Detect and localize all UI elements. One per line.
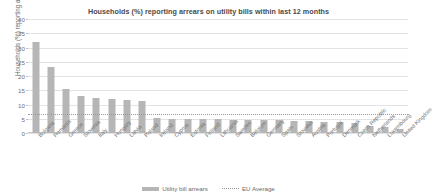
chart-title: Households (%) reporting arrears on util… — [0, 7, 417, 16]
bar-slot — [226, 19, 241, 133]
y-tick-label: 15 — [18, 87, 25, 94]
legend-label-utility-bill-arrears: Utility bill arrears — [162, 185, 208, 192]
bar-slot — [104, 19, 119, 133]
bar-slot — [332, 19, 347, 133]
bar[interactable] — [108, 99, 115, 133]
bar-slot — [165, 19, 180, 133]
bar-slot — [58, 19, 73, 133]
y-tick-label: 40 — [18, 16, 25, 23]
bar-slot — [150, 19, 165, 133]
y-tick-label: 20 — [18, 73, 25, 80]
bar-slot — [180, 19, 195, 133]
bar-slot — [28, 19, 43, 133]
bar-slot — [43, 19, 58, 133]
bar-slot — [256, 19, 271, 133]
bar-slot — [74, 19, 89, 133]
y-tick-label: 25 — [18, 58, 25, 65]
legend-label-eu-average: EU Average — [242, 185, 275, 192]
bar-slot — [286, 19, 301, 133]
bar-slot — [134, 19, 149, 133]
chart-legend: Utility bill arrears EU Average — [0, 185, 417, 192]
bar[interactable] — [32, 42, 39, 133]
bar-slot — [119, 19, 134, 133]
y-tick-label: 0 — [22, 130, 25, 137]
bar-slot — [317, 19, 332, 133]
legend-item-eu-average[interactable]: EU Average — [222, 185, 275, 192]
bar-swatch-icon — [142, 187, 159, 191]
bar-slot — [89, 19, 104, 133]
plot-area: 0510152025303540 — [28, 19, 408, 133]
bar-slot — [241, 19, 256, 133]
y-axis-title: Households (%) reporting arrears — [14, 0, 21, 84]
bar-slot — [271, 19, 286, 133]
dotted-line-swatch-icon — [222, 188, 239, 189]
bar-slot — [195, 19, 210, 133]
bar-slot — [210, 19, 225, 133]
bar-slot — [302, 19, 317, 133]
bar-slot — [347, 19, 362, 133]
y-tick-label: 30 — [18, 44, 25, 51]
y-tick-label: 35 — [18, 30, 25, 37]
y-tick-label: 10 — [18, 101, 25, 108]
y-tick-label: 5 — [22, 115, 25, 122]
bar-series-utility-bill-arrears — [28, 19, 408, 133]
legend-item-utility-bill-arrears[interactable]: Utility bill arrears — [142, 185, 208, 192]
eu-average-reference-line — [28, 114, 408, 115]
x-axis-labels: BulgariaRomaniaGreeceSloveniaItalyHungar… — [28, 134, 408, 178]
